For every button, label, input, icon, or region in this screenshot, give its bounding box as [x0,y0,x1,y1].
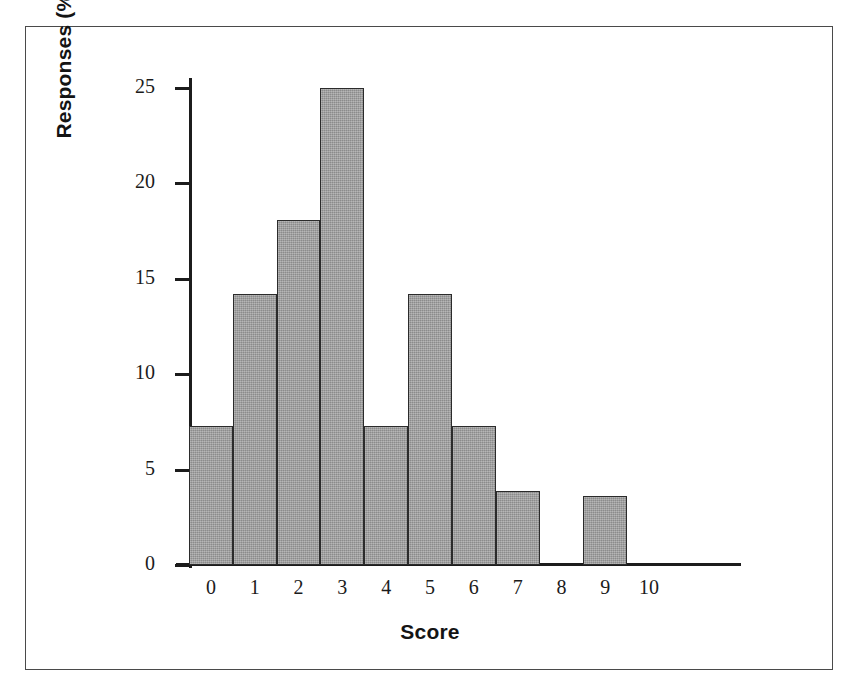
x-tick-label: 3 [320,576,364,599]
x-tick-label: 9 [583,576,627,599]
x-tick-label: 2 [277,576,321,599]
bar [320,88,364,565]
y-tick-mark [175,373,189,376]
x-tick-label: 8 [540,576,584,599]
bar [583,496,627,565]
bar [496,491,540,565]
figure-root: 2520151050 012345678910 Responses (%) Sc… [0,0,851,696]
x-axis-title: Score [189,620,671,644]
y-tick-label: 25 [105,75,155,98]
x-tick-label: 7 [496,576,540,599]
bar [452,426,496,565]
x-tick-label: 10 [627,576,671,599]
x-tick-label: 1 [233,576,277,599]
bar [233,294,277,565]
y-tick-mark [175,87,189,90]
y-tick-mark [175,182,189,185]
bar [277,220,321,565]
x-tick-label: 0 [189,576,233,599]
bar-series [189,80,740,565]
y-tick-mark [175,564,189,567]
y-tick-label: 15 [105,266,155,289]
y-tick-label: 0 [105,552,155,575]
y-tick-mark [175,278,189,281]
bar [364,426,408,565]
y-tick-label: 20 [105,170,155,193]
y-tick-mark [175,469,189,472]
x-tick-label: 6 [452,576,496,599]
y-axis-title: Responses (%) [52,0,76,192]
bar [189,426,233,565]
bar [408,294,452,565]
x-tick-label: 4 [364,576,408,599]
y-tick-label: 10 [105,361,155,384]
x-tick-label: 5 [408,576,452,599]
y-tick-label: 5 [105,457,155,480]
